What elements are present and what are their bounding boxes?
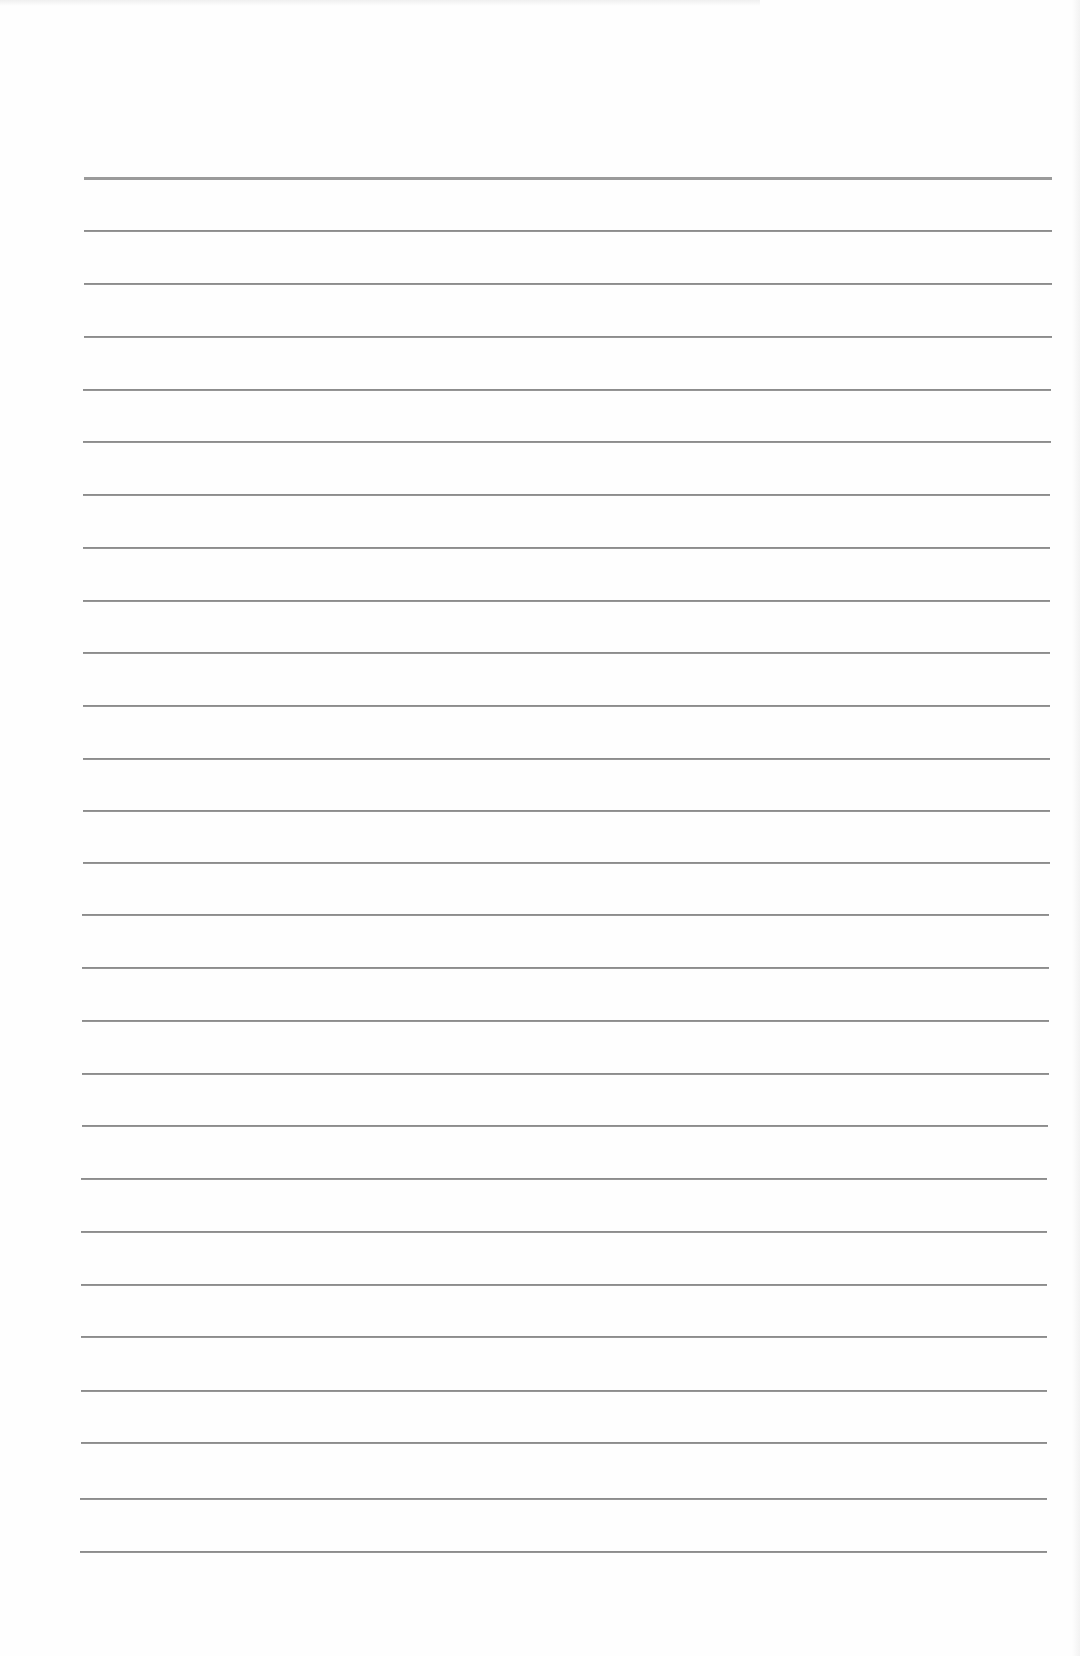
ruled-line — [81, 1390, 1047, 1392]
ruled-line — [82, 1125, 1048, 1127]
ruled-line — [83, 705, 1050, 707]
ruled-line — [81, 1336, 1047, 1338]
ruled-line — [84, 230, 1052, 232]
ruled-line — [83, 389, 1051, 391]
ruled-line — [83, 758, 1050, 760]
ruled-line — [83, 547, 1050, 549]
lined-paper-page — [0, 0, 1080, 1656]
ruled-line — [82, 1073, 1049, 1075]
ruled-line — [83, 600, 1050, 602]
ruled-line — [82, 914, 1049, 916]
ruled-line — [81, 1178, 1047, 1180]
scan-edge-shadow — [0, 0, 760, 6]
ruled-line — [83, 810, 1050, 812]
ruled-line — [82, 1020, 1049, 1022]
ruled-line — [83, 441, 1051, 443]
ruled-line — [83, 862, 1050, 864]
ruled-line — [80, 1551, 1047, 1553]
ruled-line — [83, 494, 1050, 496]
ruled-line — [82, 967, 1049, 969]
ruled-line — [81, 1442, 1047, 1444]
ruled-line — [81, 1284, 1047, 1286]
ruled-line — [84, 336, 1052, 338]
page-edge-shadow — [1072, 0, 1080, 1656]
ruled-line — [81, 1231, 1047, 1233]
ruled-line — [80, 1498, 1047, 1500]
header-rule — [84, 177, 1052, 180]
ruled-line — [84, 283, 1052, 285]
ruled-line — [83, 652, 1050, 654]
